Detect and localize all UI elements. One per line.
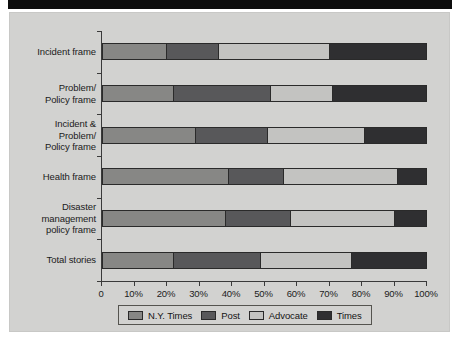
legend-item: Times xyxy=(317,310,362,321)
bar-row xyxy=(102,127,427,144)
category-label: Health frame xyxy=(43,171,96,183)
legend-item: Post xyxy=(201,310,240,321)
x-axis-tick-label: 90% xyxy=(384,288,402,299)
bar-row xyxy=(102,85,427,102)
bar-row xyxy=(102,210,427,227)
bar-segment xyxy=(352,252,427,269)
legend-label: N.Y. Times xyxy=(148,310,192,321)
bar-row xyxy=(102,43,427,60)
bar-segment xyxy=(174,252,262,269)
legend-label: Times xyxy=(337,310,362,321)
category-label: Total stories xyxy=(47,254,96,266)
bar-row xyxy=(102,252,427,269)
legend-swatch-icon xyxy=(249,311,264,320)
y-axis-tick xyxy=(97,114,102,115)
x-axis-tick-label: 30% xyxy=(189,288,207,299)
y-axis-tick xyxy=(97,198,102,199)
legend-swatch-icon xyxy=(317,311,332,320)
plot-area: 010%20%30%40%50%60%70%80%90%100% xyxy=(101,31,435,281)
chart-figure: Incident frameProblem/ Policy frameIncid… xyxy=(9,12,450,332)
y-axis-tick xyxy=(97,156,102,157)
x-axis-tick-label: 40% xyxy=(222,288,240,299)
bar-segment xyxy=(229,168,284,185)
bar-segment xyxy=(330,43,428,60)
x-axis-tick-label: 80% xyxy=(352,288,370,299)
x-axis-tick xyxy=(329,281,330,286)
category-label: Problem/ Policy frame xyxy=(45,82,96,105)
x-axis-tick xyxy=(394,281,395,286)
chart-screenshot: Incident frameProblem/ Policy frameIncid… xyxy=(0,0,458,340)
bar-segment xyxy=(284,168,398,185)
category-label: Incident & Problem/ Policy frame xyxy=(45,118,96,153)
category-axis-labels: Incident frameProblem/ Policy frameIncid… xyxy=(10,31,96,281)
x-axis-tick-label: 20% xyxy=(157,288,175,299)
bar-segment xyxy=(365,127,427,144)
chart-legend: N.Y. TimesPostAdvocateTimes xyxy=(118,305,372,325)
y-axis-tick xyxy=(97,281,102,282)
bar-row xyxy=(102,168,427,185)
bar-segment xyxy=(291,210,395,227)
y-axis-tick xyxy=(97,73,102,74)
x-axis-tick xyxy=(231,281,232,286)
bar-segment xyxy=(196,127,268,144)
bar-segment xyxy=(174,85,272,102)
top-black-banner xyxy=(8,0,452,9)
bar-segment xyxy=(167,43,219,60)
bar-segment xyxy=(219,43,330,60)
y-axis-tick xyxy=(97,239,102,240)
bar-segment xyxy=(398,168,427,185)
legend-item: N.Y. Times xyxy=(128,310,192,321)
bar-segment xyxy=(268,127,366,144)
legend-label: Advocate xyxy=(269,310,308,321)
bar-segment xyxy=(333,85,427,102)
x-axis-tick xyxy=(296,281,297,286)
category-label: Disaster management policy frame xyxy=(42,201,96,236)
bar-segment xyxy=(102,210,226,227)
bar-segment xyxy=(102,85,174,102)
x-axis-tick xyxy=(264,281,265,286)
legend-item: Advocate xyxy=(249,310,308,321)
legend-swatch-icon xyxy=(201,311,216,320)
bar-segment xyxy=(102,252,174,269)
bar-segment xyxy=(102,168,229,185)
y-axis-tick xyxy=(97,31,102,32)
legend-swatch-icon xyxy=(128,311,143,320)
legend-label: Post xyxy=(221,310,240,321)
x-axis-tick-label: 60% xyxy=(287,288,305,299)
x-axis-tick-label: 70% xyxy=(319,288,337,299)
x-axis-tick xyxy=(426,281,427,286)
x-axis-tick-label: 10% xyxy=(124,288,142,299)
x-axis-tick-label: 0 xyxy=(98,288,103,299)
x-axis-tick xyxy=(134,281,135,286)
category-label: Incident frame xyxy=(37,46,96,58)
bar-segment xyxy=(271,85,333,102)
bar-segment xyxy=(261,252,352,269)
x-axis-tick-label: 100% xyxy=(414,288,438,299)
x-axis-tick-label: 50% xyxy=(254,288,272,299)
x-axis-tick xyxy=(199,281,200,286)
bar-segment xyxy=(102,127,196,144)
bar-segment xyxy=(226,210,291,227)
bar-segment xyxy=(102,43,167,60)
x-axis-tick xyxy=(361,281,362,286)
x-axis-tick xyxy=(166,281,167,286)
bar-segment xyxy=(395,210,428,227)
